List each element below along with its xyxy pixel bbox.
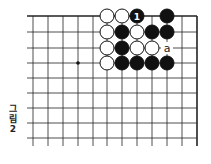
white-stone: [100, 9, 114, 23]
white-stone: [130, 41, 144, 55]
point-label: a: [164, 42, 171, 55]
caption-line: 그: [6, 104, 20, 114]
figure-caption: 그 림 2: [6, 104, 20, 134]
black-stone: [130, 56, 144, 70]
black-stone: [160, 25, 174, 39]
white-stone: [100, 56, 114, 70]
black-stone: [160, 56, 174, 70]
caption-line: 림: [6, 114, 20, 124]
black-stone: [115, 41, 129, 55]
white-stone: [130, 25, 144, 39]
black-stone: [145, 25, 159, 39]
black-stone: [115, 56, 129, 70]
go-board: a1: [0, 0, 211, 164]
black-stone: [145, 56, 159, 70]
star-point: [76, 61, 80, 65]
white-stone: [115, 9, 129, 23]
white-stone: [145, 41, 159, 55]
caption-line: 2: [6, 124, 20, 134]
black-stone: [115, 25, 129, 39]
white-stone: [100, 41, 114, 55]
move-number: 1: [134, 12, 140, 22]
white-stone: [100, 25, 114, 39]
black-stone: [160, 9, 174, 23]
